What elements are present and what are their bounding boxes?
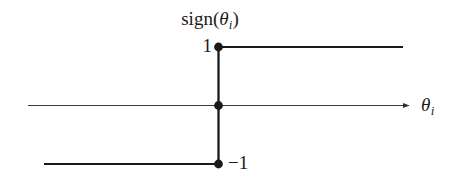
theta-symbol: θ bbox=[219, 8, 228, 29]
lower-step-point-marker bbox=[214, 160, 223, 169]
origin-point-marker bbox=[214, 101, 223, 110]
close-paren-text: ) bbox=[232, 8, 238, 29]
upper-step-point-marker bbox=[214, 43, 223, 52]
sign-function-figure: sign(θi) 1 −1 θi bbox=[0, 0, 463, 186]
negative-one-tick-label: −1 bbox=[228, 153, 248, 172]
positive-one-tick-label: 1 bbox=[190, 36, 212, 55]
x-axis-theta-symbol: θ bbox=[421, 94, 430, 115]
function-name-text: sign bbox=[181, 8, 213, 29]
x-axis-theta-subscript: i bbox=[431, 103, 435, 118]
x-axis-label: θi bbox=[421, 95, 434, 118]
function-label: sign(θi) bbox=[0, 9, 420, 32]
